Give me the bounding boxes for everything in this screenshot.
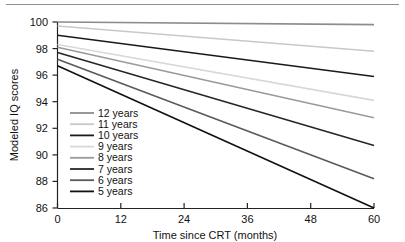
legend-label-5-years: 5 years — [98, 185, 132, 197]
x-tick-label-60: 60 — [368, 213, 380, 225]
y-tick-label-86: 86 — [36, 202, 48, 214]
y-tick-label-98: 98 — [36, 43, 48, 55]
x-tick-label-48: 48 — [305, 213, 317, 225]
series-line-10-years — [58, 35, 375, 76]
legend-label-10-years: 10 years — [98, 129, 138, 141]
y-axis-title: Modeled IQ scores — [8, 68, 20, 161]
x-tick-label-36: 36 — [241, 213, 253, 225]
series-line-12-years — [58, 22, 375, 25]
x-axis-title: Time since CRT (months) — [153, 229, 278, 241]
y-tick-marks — [53, 22, 58, 208]
chart-figure: 100 98 96 94 92 90 88 86 0 12 24 36 48 6… — [0, 0, 405, 242]
y-tick-label-92: 92 — [36, 122, 48, 134]
y-tick-label-90: 90 — [36, 149, 48, 161]
y-tick-label-88: 88 — [36, 175, 48, 187]
x-tick-marks — [58, 203, 375, 208]
legend-label-9-years: 9 years — [98, 140, 132, 152]
line-chart-svg: 100 98 96 94 92 90 88 86 0 12 24 36 48 6… — [0, 0, 405, 242]
x-tick-label-0: 0 — [54, 213, 60, 225]
y-tick-label-96: 96 — [36, 69, 48, 81]
legend-label-8-years: 8 years — [98, 151, 132, 163]
x-tick-label-12: 12 — [115, 213, 127, 225]
x-tick-label-24: 24 — [178, 213, 190, 225]
chart-legend: 12 years11 years10 years9 years8 years7 … — [70, 107, 138, 197]
legend-label-11-years: 11 years — [98, 118, 138, 130]
legend-label-6-years: 6 years — [98, 174, 132, 186]
y-tick-label-100: 100 — [30, 16, 48, 28]
legend-label-7-years: 7 years — [98, 163, 132, 175]
series-line-11-years — [58, 26, 375, 51]
y-tick-label-94: 94 — [36, 96, 48, 108]
series-line-9-years — [58, 45, 375, 101]
legend-label-12-years: 12 years — [98, 107, 138, 119]
